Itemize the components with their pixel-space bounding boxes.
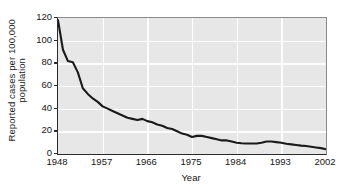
- data-series-line: [58, 18, 326, 154]
- x-axis-label: Year: [57, 172, 325, 183]
- y-axis-tick-label: 120: [26, 12, 52, 22]
- line-chart-figure: Reported cases per 100,000 population 02…: [0, 0, 340, 191]
- y-axis-tick-label: 40: [26, 103, 52, 113]
- y-axis-label-line-1: Reported cases per 100,000: [7, 19, 17, 142]
- x-axis-tick-label: 1993: [260, 157, 300, 167]
- y-axis-tick-label: 60: [26, 80, 52, 90]
- x-axis-tick-label: 1957: [82, 157, 122, 167]
- y-axis-tick-label: 100: [26, 35, 52, 45]
- x-axis-tick-label: 1975: [171, 157, 211, 167]
- y-axis-tick-label: 80: [26, 57, 52, 67]
- x-axis-tick-label: 1948: [37, 157, 77, 167]
- plot-area: [57, 17, 327, 155]
- x-axis-tick-label: 2002: [305, 157, 340, 167]
- x-axis-tick-label: 1966: [126, 157, 166, 167]
- x-axis-tick-label: 1984: [216, 157, 256, 167]
- y-axis-tick-label: 20: [26, 125, 52, 135]
